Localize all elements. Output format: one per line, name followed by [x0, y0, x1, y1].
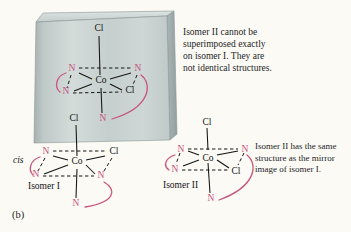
atom-co-center: Co	[95, 75, 106, 85]
figure-panel-b: Cl Co N N N Cl N Cl	[0, 0, 351, 232]
isomer2-label: Isomer II	[163, 180, 198, 190]
bond-co-bl	[44, 165, 68, 174]
annotation-line: image of isomer I.	[255, 164, 336, 176]
atom-n-plane-tl: N	[43, 146, 50, 156]
cis-label: cis	[13, 155, 24, 165]
atom-n-axial-bottom: N	[208, 193, 215, 203]
atom-n-plane-tr: N	[135, 63, 142, 73]
atom-n-plane-tl: N	[178, 144, 185, 154]
atom-cl-axial-top: Cl	[203, 117, 212, 127]
atom-co-center: Co	[202, 153, 213, 163]
atom-cl-plane-br: Cl	[232, 166, 241, 176]
bond-co-br	[86, 165, 95, 174]
annotation-line: superimposed exactly	[183, 38, 272, 50]
bond-co-tl	[188, 151, 199, 155]
annotation-line: Isomer II cannot be	[183, 26, 272, 38]
atom-cl-plane-br: Cl	[126, 85, 135, 95]
atom-n-plane-bl: N	[33, 169, 40, 179]
bond-axial-bottom	[208, 163, 210, 193]
bond-axial-top	[207, 128, 208, 150]
bond-co-bl	[183, 160, 199, 166]
annotation-mirror-image: Isomer II has the same structure as the …	[255, 141, 336, 176]
bond-co-tr	[86, 156, 105, 160]
chelate-arc-right	[219, 155, 253, 200]
atom-cl-axial-top: Cl	[95, 23, 104, 33]
annotation-line: structure as the mirror	[255, 153, 336, 165]
isomer1-label: Isomer I	[28, 181, 60, 191]
annotation-line: Isomer II has the same	[255, 141, 336, 153]
atom-cl-axial-top: Cl	[70, 113, 79, 123]
atom-n-plane-bl: N	[63, 86, 70, 96]
bond-co-tr	[217, 151, 238, 155]
annotation-line: on isomer I. They are	[183, 50, 272, 62]
annotation-line: not identical structures.	[183, 62, 272, 74]
figure-part-label: (b)	[12, 209, 24, 220]
diagram-canvas: Cl Co N N N Cl N Cl	[0, 0, 351, 232]
atom-n-plane-bl: N	[172, 164, 179, 174]
atom-n-axial-bottom: N	[100, 113, 107, 123]
atom-co-center: Co	[71, 156, 82, 166]
edge-left	[176, 153, 180, 164]
atom-n-plane-br: N	[98, 170, 105, 180]
bond-co-br	[217, 160, 229, 168]
atom-cl-plane-tr: Cl	[110, 146, 119, 156]
atom-n-axial-bottom: N	[73, 198, 80, 208]
annotation-not-superimposable: Isomer II cannot be superimposed exactly…	[183, 26, 272, 74]
edge-right	[104, 158, 112, 171]
bond-axial-bottom	[76, 169, 77, 198]
edge-right	[238, 153, 244, 165]
atom-n-plane-tr: N	[242, 144, 249, 154]
bond-co-tl	[53, 156, 68, 160]
atom-n-plane-tl: N	[69, 63, 76, 73]
chelate-arc-right	[85, 182, 112, 207]
